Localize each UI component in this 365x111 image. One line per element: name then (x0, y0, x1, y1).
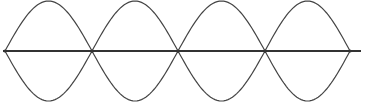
standing-wave-graphic (0, 0, 365, 111)
node-point (348, 49, 351, 52)
node-point (90, 49, 93, 52)
node-point (3, 49, 6, 52)
node-point (263, 49, 266, 52)
node-point (176, 49, 179, 52)
upper-envelope (5, 1, 350, 51)
standing-wave-diagram (0, 0, 365, 111)
lower-envelope (5, 51, 350, 101)
